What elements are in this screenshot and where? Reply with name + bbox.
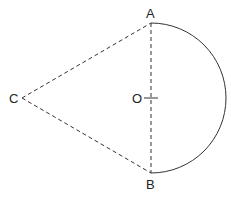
geometry-diagram: A B C O	[0, 0, 231, 197]
label-a: A	[146, 6, 155, 21]
label-b: B	[146, 177, 155, 192]
label-c: C	[9, 91, 18, 106]
segment-cb	[22, 98, 151, 173]
label-o: O	[132, 91, 142, 106]
segment-ca	[22, 23, 151, 98]
semicircle-arc	[151, 23, 226, 173]
